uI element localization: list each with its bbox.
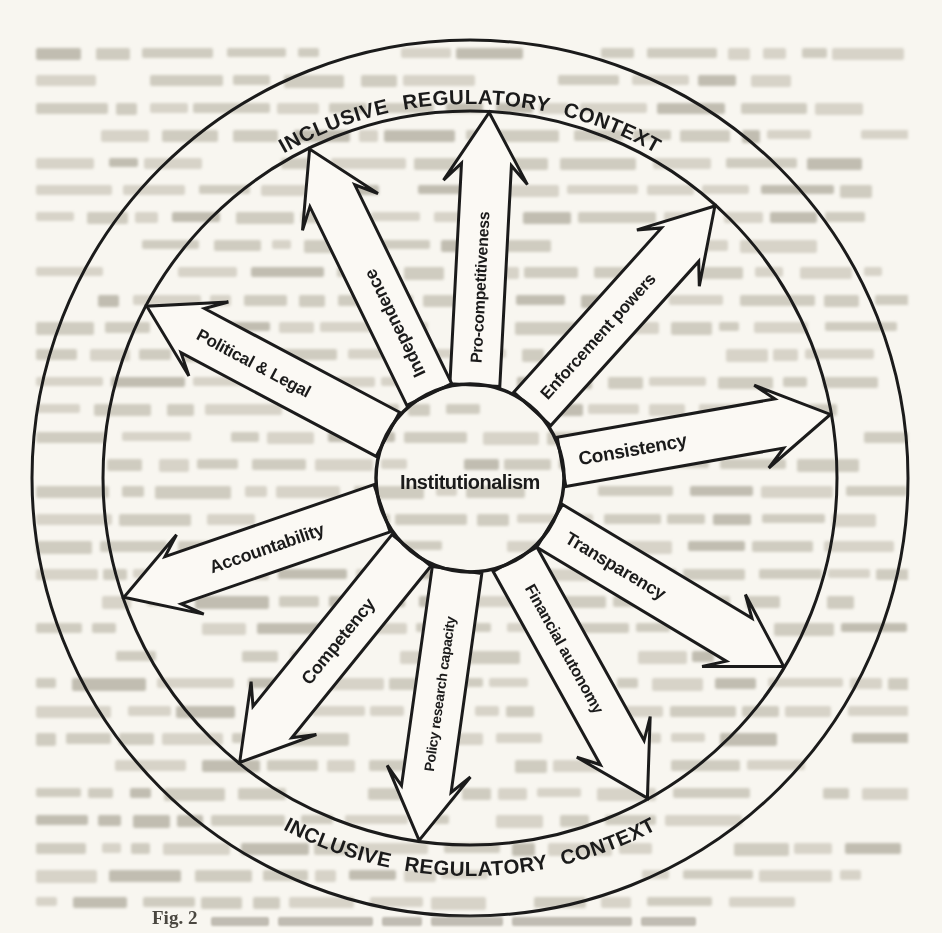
figure-caption-prefix: Fig. 2 [152, 907, 197, 928]
spoke-arrow-consistency [557, 385, 830, 486]
figure-caption-ghost-text [211, 909, 705, 931]
figure-caption: Fig. 2 [152, 907, 705, 931]
center-label: Institutionalism [400, 471, 540, 493]
spoke-label-enforcement-powers: Enforcement powers [537, 270, 660, 404]
book-page: ConsistencyEnforcement powersPro-competi… [0, 0, 942, 933]
radial-diagram: ConsistencyEnforcement powersPro-competi… [0, 0, 942, 933]
